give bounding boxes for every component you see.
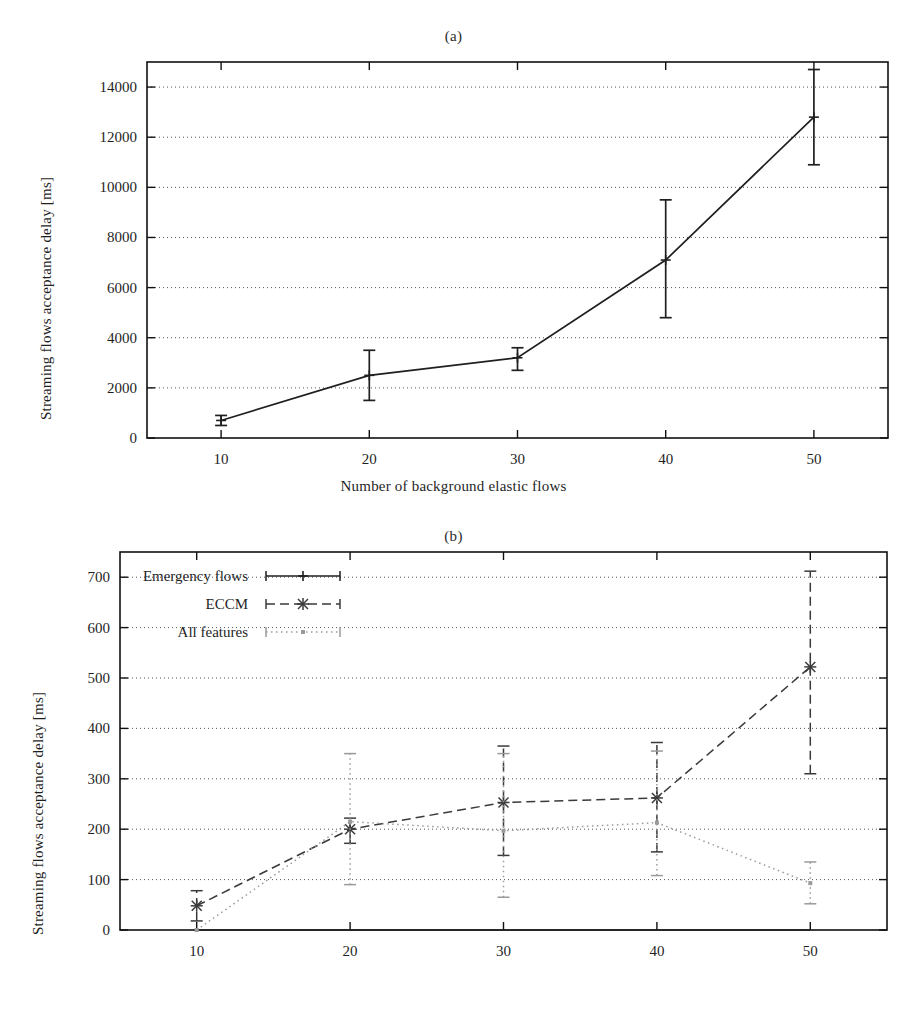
data-point-marker bbox=[513, 353, 523, 363]
legend-sample bbox=[266, 571, 340, 581]
panel-a-plot-area: 0200040006000800010000120001400010203040… bbox=[0, 0, 907, 510]
data-point-marker bbox=[191, 900, 203, 912]
plot-frame bbox=[147, 62, 888, 438]
data-point-marker bbox=[364, 370, 374, 380]
error-bar bbox=[651, 751, 663, 875]
chart-panel-a: (a) Streaming flows acceptance delay [ms… bbox=[0, 0, 907, 510]
x-tick-label: 40 bbox=[649, 943, 664, 959]
x-tick-label: 30 bbox=[510, 451, 525, 467]
y-tick-label: 100 bbox=[88, 872, 111, 888]
data-point-marker bbox=[216, 415, 226, 425]
x-tick-label: 10 bbox=[214, 451, 229, 467]
legend-sample bbox=[266, 627, 340, 637]
error-bar bbox=[344, 754, 356, 885]
legend-sample bbox=[266, 598, 340, 610]
y-tick-label: 300 bbox=[88, 771, 111, 787]
legend-label: ECCM bbox=[205, 596, 248, 612]
data-point-marker bbox=[195, 928, 199, 932]
x-tick-label: 40 bbox=[658, 451, 673, 467]
y-tick-label: 14000 bbox=[100, 79, 138, 95]
data-point-marker bbox=[804, 661, 816, 673]
data-point-marker bbox=[651, 792, 663, 804]
y-tick-label: 500 bbox=[88, 670, 111, 686]
data-point-marker bbox=[502, 829, 506, 833]
legend-label: Emergency flows bbox=[143, 568, 248, 584]
chart-panel-b: (b) Streaming flows acceptance delay [ms… bbox=[0, 510, 907, 1019]
y-tick-label: 600 bbox=[88, 620, 111, 636]
panel-b-plot-area: 01002003004005006007001020304050Emergenc… bbox=[0, 510, 907, 1019]
x-tick-label: 50 bbox=[803, 943, 818, 959]
data-point-marker bbox=[655, 821, 659, 825]
legend-label: All features bbox=[178, 624, 249, 640]
y-tick-label: 10000 bbox=[100, 179, 138, 195]
x-tick-label: 20 bbox=[362, 451, 377, 467]
y-tick-label: 200 bbox=[88, 821, 111, 837]
x-tick-label: 50 bbox=[806, 451, 821, 467]
data-point-marker bbox=[348, 820, 352, 824]
y-tick-label: 0 bbox=[103, 922, 111, 938]
x-tick-label: 10 bbox=[189, 943, 204, 959]
y-tick-label: 400 bbox=[88, 720, 111, 736]
y-tick-label: 12000 bbox=[100, 129, 138, 145]
y-tick-label: 8000 bbox=[107, 229, 137, 245]
y-tick-label: 2000 bbox=[107, 380, 137, 396]
x-tick-label: 30 bbox=[496, 943, 511, 959]
y-tick-label: 4000 bbox=[107, 330, 137, 346]
y-tick-label: 6000 bbox=[107, 280, 137, 296]
data-point-marker bbox=[808, 881, 812, 885]
x-tick-label: 20 bbox=[343, 943, 358, 959]
series-line bbox=[221, 117, 814, 420]
y-tick-label: 0 bbox=[130, 430, 138, 446]
y-tick-label: 700 bbox=[88, 569, 111, 585]
